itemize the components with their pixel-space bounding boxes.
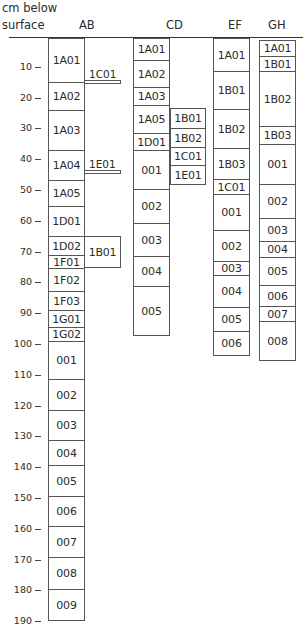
depth-tick: 40: [7, 153, 41, 164]
ab-thin-unit-label: 1C01: [89, 68, 116, 80]
ab-sample-unit: 1G02: [48, 327, 85, 342]
depth-tick-label: 140: [14, 461, 32, 472]
ab-thin-unit-label: 1E01: [89, 158, 116, 170]
axis-title-line2: surface: [2, 19, 57, 32]
cd-sample-unit: 001: [133, 150, 170, 190]
gh-sample-unit: 007: [259, 306, 296, 322]
ab-sample-unit: 002: [48, 379, 85, 411]
depth-tick: 140: [7, 461, 41, 472]
depth-tick-label: 50: [20, 184, 32, 195]
tick-mark: [35, 282, 41, 283]
depth-tick-label: 110: [14, 369, 32, 380]
tick-mark: [35, 67, 41, 68]
depth-tick: 70: [7, 246, 41, 257]
tick-mark: [35, 190, 41, 191]
ab-sample-unit: 003: [48, 410, 85, 441]
ef-sample-unit: 003: [213, 261, 250, 276]
cd-sample-unit: 1A02: [133, 60, 170, 88]
depth-tick-label: 10: [20, 61, 32, 72]
gh-sample-unit: 1B03: [259, 126, 296, 145]
tick-mark: [35, 375, 41, 376]
tick-mark: [35, 221, 41, 222]
axis-title: cm below surface: [2, 2, 57, 32]
depth-tick: 150: [7, 492, 41, 503]
column-header-cd: CD: [166, 19, 183, 32]
cd-sample-unit: 1A05: [133, 105, 170, 134]
ab-sample-unit: 1A03: [48, 110, 85, 151]
gh-sample-unit: 002: [259, 184, 296, 219]
depth-tick-label: 100: [14, 338, 32, 349]
gh-sample-unit: 1A01: [259, 40, 296, 57]
ab-sample-unit: 1F02: [48, 268, 85, 292]
gh-sample-unit: 1B01: [259, 56, 296, 72]
depth-tick-label: 190: [14, 615, 32, 626]
cd-sample-unit: 1A03: [133, 87, 170, 106]
tick-mark: [35, 313, 41, 314]
cd-side-unit: 1C01: [170, 147, 206, 166]
tick-mark: [35, 252, 41, 253]
depth-tick: 20: [7, 92, 41, 103]
column-header-ab: AB: [79, 19, 95, 32]
depth-tick: 10: [7, 61, 41, 72]
ef-sample-unit: 001: [213, 194, 250, 231]
cd-sample-unit: 003: [133, 223, 170, 257]
depth-tick: 180: [7, 584, 41, 595]
column-header-gh: GH: [268, 19, 286, 32]
tick-mark: [35, 529, 41, 530]
ab-sample-unit: 1G01: [48, 310, 85, 328]
ab-sample-unit: 1A01: [48, 38, 85, 83]
tick-mark: [35, 621, 41, 622]
depth-tick-label: 170: [14, 554, 32, 565]
cd-side-unit: 1E01: [170, 165, 206, 185]
cd-sample-unit: 005: [133, 286, 170, 336]
ef-sample-unit: 002: [213, 230, 250, 262]
tick-mark: [35, 159, 41, 160]
depth-tick-label: 30: [20, 122, 32, 133]
gh-sample-unit: 006: [259, 285, 296, 307]
depth-tick: 110: [7, 369, 41, 380]
tick-mark: [35, 498, 41, 499]
depth-tick-label: 130: [14, 430, 32, 441]
ef-sample-unit: 1B02: [213, 109, 250, 149]
ab-sample-unit: 1D01: [48, 206, 85, 237]
depth-tick: 130: [7, 430, 41, 441]
tick-mark: [35, 467, 41, 468]
depth-tick: 90: [7, 307, 41, 318]
tick-mark: [35, 590, 41, 591]
depth-tick: 60: [7, 215, 41, 226]
gh-sample-unit: 003: [259, 218, 296, 242]
ef-sample-unit: 004: [213, 275, 250, 308]
gh-sample-unit: 008: [259, 321, 296, 361]
ab-thin-unit-bar: [84, 170, 121, 174]
cd-sample-unit: 004: [133, 256, 170, 287]
ab-sample-unit: 009: [48, 589, 85, 621]
ab-sample-unit: 1A04: [48, 150, 85, 181]
depth-tick-label: 60: [20, 215, 32, 226]
tick-mark: [35, 344, 41, 345]
ab-sample-unit: 1D02: [48, 236, 85, 256]
ef-sample-unit: 1B01: [213, 71, 250, 110]
depth-tick: 120: [7, 400, 41, 411]
cd-side-unit: 1B02: [170, 128, 206, 148]
depth-tick-label: 180: [14, 584, 32, 595]
ab-sample-unit: 005: [48, 465, 85, 497]
ab-sample-unit: 006: [48, 496, 85, 527]
gh-sample-unit: 005: [259, 257, 296, 286]
ef-sample-unit: 1A01: [213, 38, 250, 72]
ef-sample-unit: 1C01: [213, 179, 250, 195]
tick-mark: [35, 560, 41, 561]
ab-sample-unit: 1F03: [48, 291, 85, 311]
cd-sample-unit: 002: [133, 189, 170, 224]
depth-tick: 160: [7, 523, 41, 534]
tick-mark: [35, 98, 41, 99]
depth-tick: 50: [7, 184, 41, 195]
tick-mark: [35, 128, 41, 129]
depth-tick-label: 120: [14, 400, 32, 411]
depth-tick-label: 80: [20, 276, 32, 287]
gh-sample-unit: 1B02: [259, 71, 296, 127]
depth-tick-label: 150: [14, 492, 32, 503]
depth-tick-label: 160: [14, 523, 32, 534]
tick-mark: [35, 436, 41, 437]
axis-title-line1: cm below: [2, 2, 57, 15]
ef-sample-unit: 005: [213, 307, 250, 332]
